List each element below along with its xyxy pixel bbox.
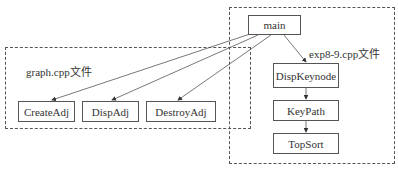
dispadj-node: DispAdj xyxy=(82,101,139,122)
keypath-node: KeyPath xyxy=(273,100,339,121)
createadj-node: CreateAdj xyxy=(18,101,75,122)
destroyadj-node: DestroyAdj xyxy=(146,101,216,122)
graph-cpp-file-label: graph.cpp文件 xyxy=(26,63,92,79)
dispkeynode-node: DispKeynode xyxy=(273,63,339,88)
exp-cpp-file-label: exp8-9.cpp文件 xyxy=(309,45,380,61)
main-node: main xyxy=(248,15,301,35)
topsort-node: TopSort xyxy=(273,133,339,154)
